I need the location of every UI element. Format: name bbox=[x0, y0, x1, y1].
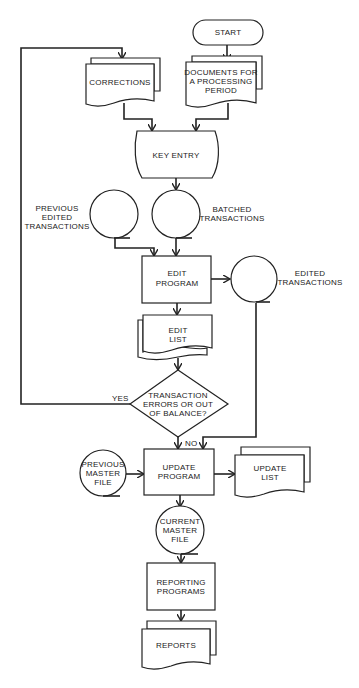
key-entry-label: KEY ENTRY bbox=[153, 151, 200, 160]
previous-edited-label-line1: PREVIOUS bbox=[36, 204, 79, 213]
start-terminator: START bbox=[193, 20, 263, 45]
previous-edited-label-line3: TRANSACTIONS bbox=[24, 222, 89, 231]
documents-multidoc: DOCUMENTS FOR A PROCESSING PERIOD bbox=[184, 56, 262, 107]
corrections-label: CORRECTIONS bbox=[89, 78, 150, 87]
decision-label-line3: OF BALANCE? bbox=[149, 409, 207, 418]
batched-tape: BATCHED TRANSACTIONS bbox=[152, 190, 265, 238]
previous-master-label-line2: MASTER bbox=[86, 469, 121, 478]
documents-label-line1: DOCUMENTS FOR bbox=[184, 68, 257, 77]
update-program-process: UPDATE PROGRAM bbox=[144, 449, 214, 495]
documents-label-line3: PERIOD bbox=[205, 86, 237, 95]
reports-label: REPORTS bbox=[156, 641, 196, 650]
reporting-programs-label-line1: REPORTING bbox=[156, 578, 205, 587]
flowchart-canvas: START DOCUMENTS FOR A PROCESSING PERIOD … bbox=[0, 0, 359, 688]
batched-label-line1: BATCHED bbox=[212, 205, 251, 214]
edit-program-label-line1: EDIT bbox=[167, 269, 186, 278]
edited-label-line2: TRANSACTIONS bbox=[277, 278, 342, 287]
key-entry-shape: KEY ENTRY bbox=[135, 131, 218, 178]
update-program-label-line1: UPDATE bbox=[162, 463, 195, 472]
reports-multidoc: REPORTS bbox=[142, 621, 216, 669]
no-label: NO bbox=[185, 439, 197, 448]
edit-program-process: EDIT PROGRAM bbox=[142, 256, 211, 303]
current-master-label-line2: MASTER bbox=[163, 526, 198, 535]
reporting-programs-process: REPORTING PROGRAMS bbox=[147, 563, 215, 610]
reporting-programs-label-line2: PROGRAMS bbox=[157, 587, 205, 596]
current-master-label-line1: CURRENT bbox=[160, 517, 201, 526]
batched-label-line2: TRANSACTIONS bbox=[199, 214, 264, 223]
edit-program-label-line2: PROGRAM bbox=[156, 279, 199, 288]
decision-label-line2: ERRORS OR OUT bbox=[143, 400, 213, 409]
edited-label-line1: EDITED bbox=[295, 269, 326, 278]
previous-master-label-line1: PREVIOUS bbox=[82, 460, 125, 469]
edge-corrections-keyentry bbox=[124, 103, 152, 130]
previous-master-tape: PREVIOUS MASTER FILE bbox=[80, 450, 126, 496]
previous-edited-tape: PREVIOUS EDITED TRANSACTIONS bbox=[24, 190, 138, 238]
edit-list-multidoc: EDIT LIST bbox=[138, 315, 212, 360]
start-label: START bbox=[215, 28, 241, 37]
edit-list-label-line1: EDIT bbox=[168, 326, 187, 335]
edit-list-label-line2: LIST bbox=[169, 335, 187, 344]
edited-tape: EDITED TRANSACTIONS bbox=[231, 256, 343, 302]
update-list-label-line2: LIST bbox=[261, 473, 279, 482]
update-list-multidoc: UPDATE LIST bbox=[235, 447, 310, 497]
decision-diamond: TRANSACTION ERRORS OR OUT OF BALANCE? bbox=[130, 370, 228, 437]
update-list-label-line1: UPDATE bbox=[253, 464, 286, 473]
previous-master-label-line3: FILE bbox=[94, 478, 112, 487]
decision-label-line1: TRANSACTION bbox=[148, 391, 208, 400]
yes-label: YES bbox=[112, 394, 129, 403]
previous-edited-label-line2: EDITED bbox=[42, 213, 73, 222]
current-master-label-line3: FILE bbox=[171, 535, 189, 544]
corrections-multidoc: CORRECTIONS bbox=[86, 58, 160, 106]
documents-label-line2: A PROCESSING bbox=[190, 77, 253, 86]
edge-prevedited-editprogram bbox=[115, 238, 154, 255]
current-master-tape: CURRENT MASTER FILE bbox=[156, 506, 204, 554]
update-program-label-line2: PROGRAM bbox=[158, 472, 201, 481]
